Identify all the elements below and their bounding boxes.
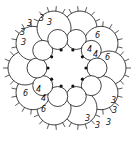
picot [39,121,42,125]
join-dot [84,66,87,69]
picot [56,125,57,130]
stitch-count-label: 4 [41,94,46,103]
stitch-count-label: 6 [23,89,28,98]
picot [11,96,16,97]
stitch-count-label: 4 [87,45,92,54]
picot [47,124,49,129]
picot [56,6,57,11]
stitch-count-label: 3 [21,38,26,47]
picot [103,21,104,26]
picot [10,81,13,85]
picot [22,107,24,111]
stitch-count-label: 3 [111,96,116,105]
join-dot [81,55,84,58]
inner-ring [48,29,68,49]
join-dot [46,66,49,69]
picot [103,110,104,115]
join-dot [71,84,74,87]
picot [63,9,66,13]
inner-ring [66,87,86,107]
stitch-count-label: 3 [112,106,117,115]
picot [5,75,10,77]
join-dot [50,55,53,58]
stitch-count-label: 6 [41,105,46,114]
picot [118,96,123,97]
picot [47,7,49,12]
picot [12,47,17,48]
stitch-count-label: 3 [20,28,25,37]
picot [15,30,19,33]
picot [69,9,72,13]
picot [34,19,39,21]
picot [5,59,10,61]
picot [85,7,87,12]
inner-ring [87,58,107,78]
stitch-count-label: 4 [93,50,98,59]
picot [91,12,94,16]
picot [11,39,16,40]
picot [10,52,13,56]
stitch-count-label: 3 [27,19,32,28]
picot [118,39,123,40]
picot [12,88,17,89]
join-dot [60,84,63,87]
picot [78,6,79,11]
stitch-count-label: 4 [36,85,41,94]
join-dot [81,78,84,81]
join-dot [71,48,74,51]
picot [96,115,101,117]
picot [69,123,72,127]
stitch-count-label: 3 [39,14,44,23]
picot [31,110,32,115]
picot [120,52,123,56]
picot [109,24,111,28]
stitch-count-label: 6 [105,53,110,62]
picot [120,81,123,85]
picot [15,103,19,106]
picot [115,30,119,33]
tatting-diagram: 333336446644633333 [0,0,133,141]
picot [96,19,101,21]
stitch-count-label: 3 [95,121,100,130]
stitch-count-label: 3 [106,118,111,127]
picot [85,124,87,129]
picot [125,75,130,77]
join-dot [50,78,53,81]
inner-ring [27,58,47,78]
picot [125,59,130,61]
picot [63,123,66,127]
stitch-count-label: 3 [47,18,52,27]
picot [118,88,123,89]
stitch-count-label: 6 [95,31,100,40]
picot [118,47,123,48]
stitch-count-label: 3 [85,114,90,123]
join-dot [60,48,63,51]
picot [78,125,79,130]
picot [34,115,39,117]
